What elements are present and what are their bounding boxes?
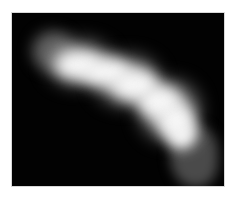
bright-curved-object bbox=[42, 33, 217, 163]
image-frame bbox=[11, 12, 225, 187]
